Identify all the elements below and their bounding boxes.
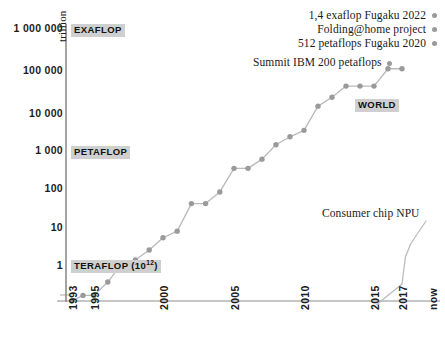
annotation-marker-dot [432,27,437,32]
y-tick-label: 100 [45,183,63,194]
annotation-marker-dot [432,41,437,46]
y-tick-label: 1 [57,260,63,271]
x-tick-label: 1993 [68,285,79,310]
x-tick-label: 2010 [300,285,311,310]
x-tick-label: now [428,288,439,310]
data-point-marker [343,83,348,88]
data-point-marker [80,293,85,298]
band-label-petaflop: PETAFLOP [71,146,130,159]
annotation-row: 1,4 exaflop Fugaku 2022 [177,8,437,22]
annotation-row: Folding@home project [177,22,437,36]
band-label-teraflop-tail: ) [154,260,158,271]
y-axis-tick-labels: 1 000 000100 00010 0001 000100101 [0,0,63,357]
annotation-summit: Summit IBM 200 petaflops [253,56,392,68]
data-point-marker [189,201,194,206]
y-tick-label: 1 000 [35,145,63,156]
y-tick-label: 10 000 [29,108,63,119]
x-tick-label: 1995 [90,285,101,310]
band-label-exaflop: EXAFLOP [71,24,125,37]
annotation-summit-text: Summit IBM 200 petaflops [253,56,382,68]
data-point-marker [273,142,278,147]
y-axis-caption: trillion [56,10,68,42]
data-point-marker [160,235,165,240]
annotation-summit-dot [387,61,392,66]
band-label-teraflop-main: TERAFLOP (10 [74,260,146,271]
chart-container: 1 000 000100 00010 0001 000100101 trilli… [0,0,445,357]
band-label-world: WORLD [355,99,399,112]
y-tick-label: 10 [51,222,63,233]
data-point-marker [287,134,292,139]
x-tick-label: 2015 [370,285,381,310]
data-point-marker [371,83,376,88]
data-point-marker [259,156,264,161]
y-tick-label: 100 000 [23,65,63,76]
data-point-marker [301,128,306,133]
x-tick-label: 2000 [159,285,170,310]
data-point-marker [175,228,180,233]
annotation-label: 512 petaflops Fugaku 2020 [298,37,426,49]
data-point-marker [245,166,250,171]
data-point-marker [329,95,334,100]
annotation-label: 1,4 exaflop Fugaku 2022 [309,9,426,21]
x-tick-label: 2017 [398,285,409,310]
annotation-row: 512 petaflops Fugaku 2020 [177,36,437,50]
annotation-consumer-npu: Consumer chip NPU [322,207,420,219]
band-label-teraflop: TERAFLOP (1012) [71,260,161,273]
data-point-marker [203,201,208,206]
x-tick-label: 2005 [230,285,241,310]
data-point-marker [147,247,152,252]
data-point-marker [357,83,362,88]
data-point-marker [315,103,320,108]
annotation-legend-group: 1,4 exaflop Fugaku 2022Folding@home proj… [177,8,437,50]
data-point-marker [105,279,110,284]
annotation-label: Folding@home project [317,23,426,35]
data-point-marker [399,66,404,71]
data-point-marker [217,189,222,194]
data-point-marker [231,166,236,171]
annotation-marker-dot [432,13,437,18]
